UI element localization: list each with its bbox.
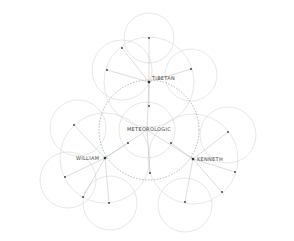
- leaf-node[interactable]: [127, 142, 129, 144]
- hub-node[interactable]: [104, 157, 106, 159]
- edge: [122, 48, 149, 82]
- leaf-node[interactable]: [73, 124, 75, 126]
- leaf-node[interactable]: [108, 202, 110, 204]
- leaf-node[interactable]: [121, 47, 123, 49]
- leaf-node[interactable]: [149, 172, 151, 174]
- hub-node[interactable]: [192, 158, 194, 160]
- leaf-node[interactable]: [190, 68, 192, 70]
- leaf-node[interactable]: [64, 176, 66, 178]
- hub-node[interactable]: [148, 81, 150, 83]
- edge: [147, 130, 193, 159]
- edge: [105, 158, 109, 203]
- edge: [171, 143, 193, 159]
- diagram-canvas: METEOROLOGIC TIBETAN WILLIAM KENNETH: [0, 0, 294, 241]
- leaf-node[interactable]: [82, 196, 84, 198]
- hub-label-tibetan: TIBETAN: [151, 75, 175, 81]
- leaf-node[interactable]: [148, 105, 150, 107]
- leaf-node[interactable]: [106, 69, 108, 71]
- leaf-node[interactable]: [170, 142, 172, 144]
- leaf-node[interactable]: [148, 37, 150, 39]
- mind-map-diagram: METEOROLOGIC TIBETAN WILLIAM KENNETH: [0, 0, 294, 241]
- circle-layer: [40, 13, 256, 232]
- center-label: METEOROLOGIC: [127, 126, 171, 132]
- edge: [185, 159, 193, 202]
- edge: [107, 70, 149, 82]
- leaf-node[interactable]: [227, 131, 229, 133]
- leaf-node[interactable]: [234, 171, 236, 173]
- node-layer: [64, 37, 236, 204]
- hub-label-kenneth: KENNETH: [197, 156, 223, 162]
- edge: [193, 132, 228, 159]
- leaf-node[interactable]: [184, 201, 186, 203]
- leaf-node[interactable]: [221, 191, 223, 193]
- edge: [193, 159, 222, 192]
- hub-label-william: WILLIAM: [76, 155, 99, 161]
- edge: [105, 143, 128, 158]
